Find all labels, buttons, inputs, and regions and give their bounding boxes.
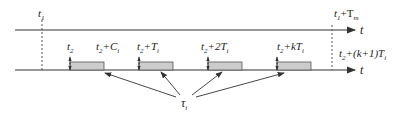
bottom-time-axis: t — [15, 63, 364, 77]
task-box-1 — [70, 62, 104, 70]
task-box-2 — [139, 62, 173, 70]
task-boxes — [70, 62, 311, 70]
t1-label: t1 — [38, 7, 45, 22]
tick-label-t2: t2 — [67, 40, 74, 55]
tick-label-t2-2ti: t2+2Ti — [201, 40, 229, 55]
tick-label-t2-kti: t2+kTi — [277, 40, 304, 55]
top-axis-label: t — [360, 23, 364, 37]
task-tau-label: τi — [181, 96, 187, 112]
bottom-axis-label: t — [360, 63, 364, 77]
tau-pointer-arrows — [105, 72, 284, 97]
t1-plus-tm-label: t1+Tm — [334, 7, 359, 22]
timing-diagram: t t t1 t1+Tm t2 t2+Ci t2+Ti t2+2Ti t2+kT… — [0, 0, 395, 116]
tick-label-t2-ti: t2+Ti — [137, 40, 159, 55]
top-time-axis: t — [15, 23, 364, 37]
task-box-4 — [277, 62, 311, 70]
tick-label-t2-ci: t2+Ci — [96, 40, 119, 55]
task-box-3 — [208, 62, 242, 70]
tick-label-t2-k1ti: t2+(k+1)Ti — [339, 47, 386, 62]
